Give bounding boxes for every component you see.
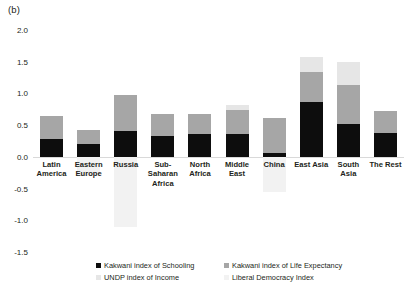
x-axis-category-label: Latin America: [33, 160, 70, 179]
bar-segment: [114, 131, 137, 156]
legend-label: Kakwani index of Schooling: [104, 261, 194, 270]
x-axis-category-label: Russia: [107, 160, 144, 169]
legend-label: UNDP index of Income: [104, 273, 179, 282]
legend-swatch-icon: [224, 275, 229, 280]
bar-segment: [374, 111, 397, 133]
y-axis-tick-label: -0.5: [14, 184, 28, 193]
bar-group: [40, 30, 63, 258]
bar-group: [77, 30, 100, 258]
chart-figure: (b) 2.01.51.00.50.0-0.5-1.0-1.5 Latin Am…: [0, 0, 407, 298]
legend-item[interactable]: Liberal Democracy Index: [224, 273, 346, 282]
bar-series-container: [33, 30, 404, 258]
bar-segment: [226, 110, 249, 134]
legend-label: Liberal Democracy Index: [232, 273, 314, 282]
bar-segment: [337, 85, 360, 124]
bar-segment: [263, 118, 286, 154]
legend-swatch-icon: [96, 275, 101, 280]
legend-item[interactable]: Kakwani index of Schooling: [96, 261, 224, 270]
y-axis-tick-label: -1.5: [14, 248, 28, 257]
y-axis-tick-label: -1.0: [14, 216, 28, 225]
bar-segment: [374, 133, 397, 157]
y-axis-tick-label: 0.5: [17, 121, 28, 130]
legend-item[interactable]: UNDP index of Income: [96, 273, 224, 282]
legend-label: Kakwani index of Life Expectancy: [232, 261, 342, 270]
bar-group: [263, 30, 286, 258]
y-axis-tick-label: 2.0: [17, 26, 28, 35]
bar-group: [300, 30, 323, 258]
y-axis-tick-label: 1.0: [17, 89, 28, 98]
x-axis-category-label: The Rest: [367, 160, 404, 169]
bar-segment: [114, 95, 137, 132]
bar-segment: [40, 139, 63, 157]
bar-segment: [300, 102, 323, 157]
x-axis-category-label: Sub-Saharan Africa: [144, 160, 181, 188]
y-axis-tick-label: 0.0: [17, 152, 28, 161]
x-axis-category-label: East Asia: [293, 160, 330, 169]
bar-segment: [151, 136, 174, 157]
bar-segment: [337, 124, 360, 157]
bar-segment: [188, 134, 211, 157]
bar-segment: [226, 134, 249, 157]
legend-swatch-icon: [96, 263, 101, 268]
y-axis-tick-label: 1.5: [17, 57, 28, 66]
bar-segment: [226, 105, 249, 110]
x-axis-category-label: Middle East: [219, 160, 256, 179]
bar-group: [226, 30, 249, 258]
chart-legend: Kakwani index of SchoolingKakwani index …: [96, 261, 346, 282]
x-axis-category-label: South Asia: [330, 160, 367, 179]
legend-item[interactable]: Kakwani index of Life Expectancy: [224, 261, 346, 270]
plot-area: 2.01.51.00.50.0-0.5-1.0-1.5 Latin Americ…: [33, 30, 404, 258]
x-axis-category-label: China: [256, 160, 293, 169]
bar-group: [374, 30, 397, 258]
legend-swatch-icon: [224, 263, 229, 268]
bar-group: [188, 30, 211, 258]
legend-row: UNDP index of IncomeLiberal Democracy In…: [96, 273, 346, 282]
bar-segment: [40, 116, 63, 139]
bar-group: [114, 30, 137, 258]
x-axis-category-label: Eastern Europe: [70, 160, 107, 179]
bar-segment: [77, 144, 100, 157]
bar-segment: [300, 57, 323, 73]
bar-segment: [337, 62, 360, 85]
panel-label: (b): [8, 4, 20, 15]
x-axis-category-label: North Africa: [181, 160, 218, 179]
bar-segment: [151, 114, 174, 136]
bar-segment: [77, 130, 100, 144]
legend-row: Kakwani index of SchoolingKakwani index …: [96, 261, 346, 270]
bar-group: [337, 30, 360, 258]
bar-segment: [300, 72, 323, 102]
bar-segment: [188, 114, 211, 134]
bar-group: [151, 30, 174, 258]
